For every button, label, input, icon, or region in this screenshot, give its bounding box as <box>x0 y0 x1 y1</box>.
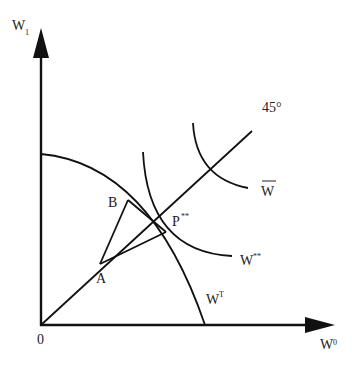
y-axis-arrow-icon <box>33 28 49 58</box>
diagram-canvas: W 1 W 0 0 45° A B P ** W W ** W T <box>0 0 352 368</box>
point-p-superscript: ** <box>181 212 189 221</box>
w-t-superscript: T <box>219 290 224 299</box>
x-axis-label: W <box>320 337 334 352</box>
line-a-to-p <box>100 232 166 264</box>
w-bar-label: W <box>261 184 275 199</box>
indifference-curve-w-star <box>143 152 232 256</box>
point-b-label: B <box>108 195 117 210</box>
y-axis-subscript: 1 <box>25 28 29 37</box>
x-axis-subscript: 0 <box>333 338 337 347</box>
point-p-label: P <box>172 214 180 229</box>
line-45-label: 45° <box>262 100 282 115</box>
y-axis-label: W <box>12 18 26 33</box>
x-axis-arrow-icon <box>305 317 335 333</box>
point-a-label: A <box>96 271 107 286</box>
origin-label: 0 <box>37 332 44 347</box>
w-t-label: W <box>206 292 220 307</box>
w-star-label: W <box>240 253 254 268</box>
w-star-superscript: ** <box>253 252 261 261</box>
